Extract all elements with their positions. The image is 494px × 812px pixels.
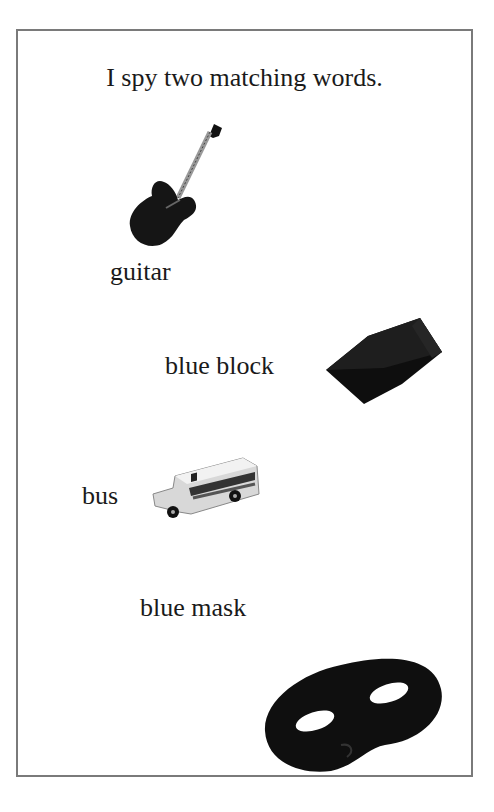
- word-guitar: guitar: [110, 257, 171, 287]
- worksheet-card: I spy two matching words. guitar blue bl…: [16, 29, 473, 777]
- word-bus: bus: [82, 481, 118, 511]
- bus-icon[interactable]: [151, 454, 261, 526]
- guitar-icon[interactable]: [126, 120, 226, 250]
- block-icon[interactable]: [324, 312, 446, 406]
- prompt-title: I spy two matching words.: [18, 63, 471, 93]
- mask-icon[interactable]: [261, 645, 447, 775]
- word-blue-block: blue block: [165, 351, 274, 381]
- word-blue-mask: blue mask: [140, 593, 246, 623]
